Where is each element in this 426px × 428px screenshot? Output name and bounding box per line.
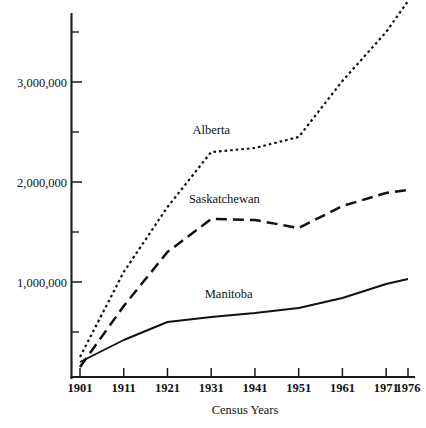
y-axis-tick-labels: 1,000,0002,000,0003,000,000 [17,76,67,290]
y-tick-label: 3,000,000 [17,76,67,90]
data-series-group [80,1,408,367]
x-tick-label: 1951 [286,381,311,395]
x-tick-label: 1911 [112,381,136,395]
chart-page: 1,000,0002,000,0003,000,000 190119111921… [0,0,426,428]
x-axis-tick-labels: 190119111921193119411951196119711976 [68,381,421,395]
x-tick-label: 1941 [242,381,267,395]
series-label-alberta: Alberta [192,123,230,137]
y-tick-label: 2,000,000 [17,176,67,190]
series-line-alberta [80,1,408,357]
series-label-saskatchewan: Saskatchewan [189,192,261,206]
x-tick-label: 1921 [155,381,180,395]
y-tick-label: 1,000,000 [17,276,67,290]
y-axis-major-ticks [72,82,83,282]
series-line-saskatchewan [80,190,408,367]
census-population-line-chart: 1,000,0002,000,0003,000,000 190119111921… [0,0,426,428]
series-label-manitoba: Manitoba [205,287,253,301]
x-tick-label: 1931 [199,381,224,395]
x-tick-label: 1901 [68,381,93,395]
x-tick-label: 1976 [396,381,421,395]
x-tick-label: 1961 [330,381,355,395]
x-axis-ticks [80,368,408,377]
x-axis-title: Census Years [212,403,279,417]
